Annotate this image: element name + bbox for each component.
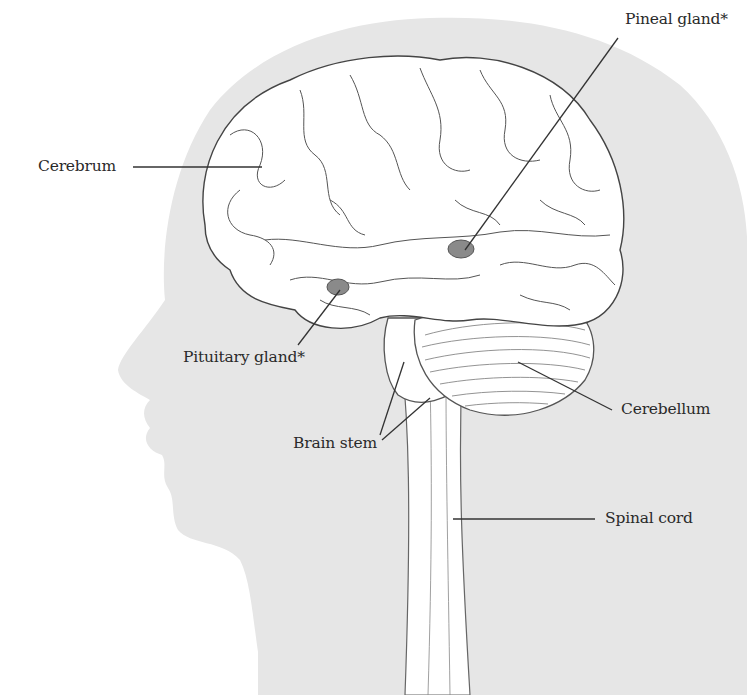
brain-diagram (0, 0, 747, 695)
spinal-cord-shape (402, 362, 470, 695)
label-brain-stem: Brain stem (293, 434, 377, 452)
cerebrum-shape (203, 56, 624, 328)
label-cerebellum: Cerebellum (621, 400, 710, 418)
label-pineal-gland: Pineal gland* (625, 10, 728, 28)
label-spinal-cord: Spinal cord (605, 509, 693, 527)
label-cerebrum: Cerebrum (38, 157, 116, 175)
label-pituitary-gland: Pituitary gland* (183, 348, 305, 366)
